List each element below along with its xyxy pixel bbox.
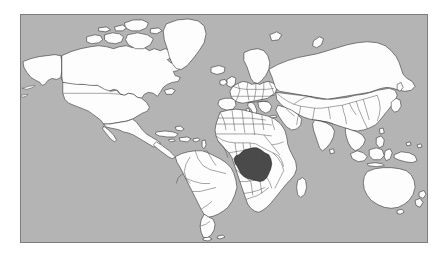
islet-taiwan bbox=[379, 128, 384, 134]
world-locator-map bbox=[20, 14, 428, 243]
islet-pacific-small bbox=[417, 144, 422, 148]
islet-sri-lanka bbox=[329, 149, 334, 154]
page-background bbox=[0, 0, 448, 255]
landmass-borneo bbox=[369, 148, 384, 160]
islet-victoria-island bbox=[105, 33, 124, 44]
map-frame bbox=[20, 14, 428, 243]
islet-pacific-small-2 bbox=[406, 142, 411, 146]
world-map-svg bbox=[21, 15, 427, 242]
